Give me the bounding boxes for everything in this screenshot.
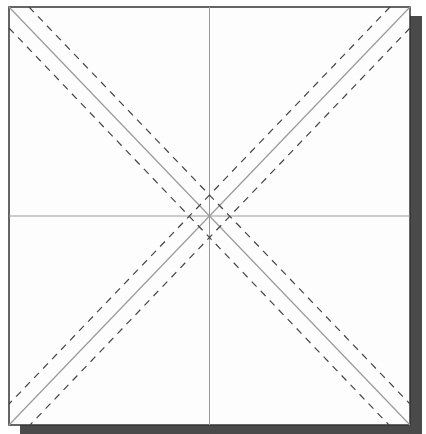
crease-pattern-diagram xyxy=(0,0,426,434)
